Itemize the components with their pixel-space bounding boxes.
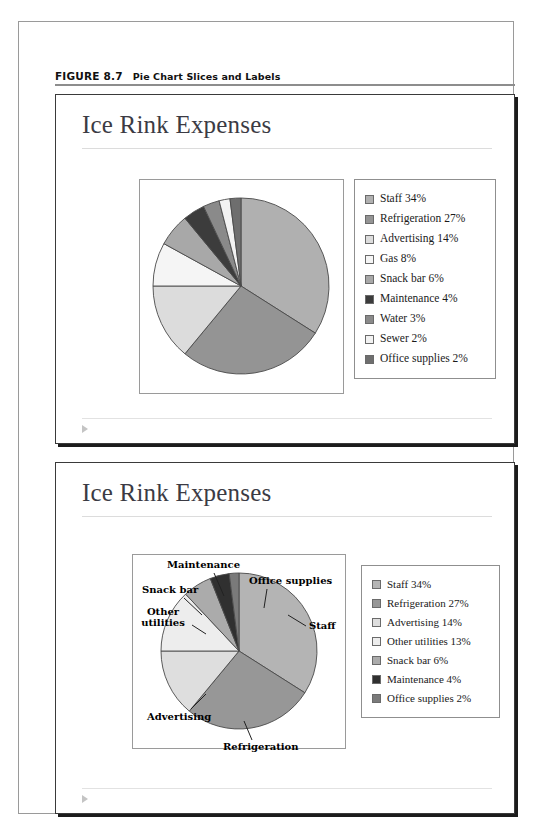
legend-item-label: Staff 34% [380,193,426,205]
slide-1[interactable]: Ice Rink Expenses Staff 34%Refrigeration… [55,94,515,444]
legend-item: Sewer 2% [365,329,484,349]
legend-swatch-icon [372,656,381,665]
legend-swatch-icon [372,599,381,608]
legend-item: Snack bar 6% [372,651,488,670]
legend-item: Gas 8% [365,249,484,269]
legend-item: Maintenance 4% [365,289,484,309]
legend-item-label: Staff 34% [387,579,431,590]
legend-swatch-icon [372,580,381,589]
legend-item-label: Snack bar 6% [380,273,444,285]
legend-item-label: Advertising 14% [387,617,462,628]
legend-item-label: Maintenance 4% [380,293,458,305]
legend-item-label: Refrigeration 27% [387,598,469,609]
legend-item-label: Sewer 2% [380,333,427,345]
legend-swatch-icon [372,637,381,646]
legend-item: Water 3% [365,309,484,329]
figure-number: FIGURE 8.7 [55,70,123,82]
legend-swatch-icon [365,315,374,324]
legend-item: Office supplies 2% [372,689,488,708]
play-triangle-icon [82,795,88,803]
legend-item: Snack bar 6% [365,269,484,289]
legend-swatch-icon [365,335,374,344]
caption-divider [55,84,515,86]
chart-2-legend: Staff 34%Refrigeration 27%Advertising 14… [361,565,500,718]
slide-2[interactable]: Ice Rink Expenses Maintenance Office sup… [55,462,515,814]
figure-caption: FIGURE 8.7 Pie Chart Slices and Labels [55,60,515,82]
chart-1-pie-svg [140,180,343,393]
figure-title: Pie Chart Slices and Labels [133,71,281,82]
legend-swatch-icon [365,275,374,284]
callout-office-supplies: Office supplies [249,576,332,587]
play-triangle-icon [82,425,88,433]
legend-item: Advertising 14% [365,229,484,249]
slide-2-title-divider [82,516,492,517]
legend-swatch-icon [365,355,374,364]
legend-swatch-icon [365,235,374,244]
legend-item-label: Water 3% [380,313,425,325]
callout-advertising: Advertising [147,712,211,723]
slide-2-title: Ice Rink Expenses [82,479,271,507]
slide-1-title: Ice Rink Expenses [82,111,271,139]
legend-item-label: Snack bar 6% [387,655,448,666]
legend-swatch-icon [365,255,374,264]
slide-1-footer-divider [82,418,492,419]
legend-item: Office supplies 2% [365,349,484,369]
legend-item: Staff 34% [365,189,484,209]
callout-maintenance: Maintenance [167,560,240,571]
legend-swatch-icon [365,295,374,304]
legend-item-label: Other utilities 13% [387,636,471,647]
legend-item: Refrigeration 27% [365,209,484,229]
slide-1-title-divider [82,148,492,149]
legend-item: Advertising 14% [372,613,488,632]
legend-item-label: Refrigeration 27% [380,213,465,225]
callout-staff: Staff [309,621,336,632]
legend-item-label: Advertising 14% [380,233,458,245]
legend-swatch-icon [372,675,381,684]
legend-item: Staff 34% [372,575,488,594]
legend-swatch-icon [372,618,381,627]
page-frame: FIGURE 8.7 Pie Chart Slices and Labels I… [18,21,514,814]
legend-item-label: Office supplies 2% [387,693,471,704]
legend-item: Refrigeration 27% [372,594,488,613]
callout-refrigeration: Refrigeration [223,742,299,753]
legend-swatch-icon [372,694,381,703]
slide-2-footer-divider [82,788,492,789]
chart-1-pie [140,180,343,393]
callout-snack-bar: Snack bar [142,585,198,596]
legend-item: Maintenance 4% [372,670,488,689]
legend-swatch-icon [365,195,374,204]
legend-item-label: Gas 8% [380,253,416,265]
legend-item-label: Maintenance 4% [387,674,461,685]
legend-item-label: Office supplies 2% [380,353,468,365]
legend-swatch-icon [365,215,374,224]
chart-1-plot-area [139,179,344,394]
callout-other-utilities: Other utilities [134,607,192,628]
chart-1-legend: Staff 34%Refrigeration 27%Advertising 14… [354,179,496,379]
legend-item: Other utilities 13% [372,632,488,651]
